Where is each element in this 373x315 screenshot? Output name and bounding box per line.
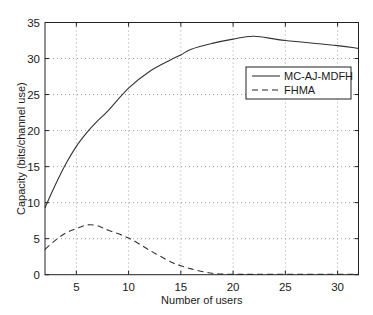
x-tick-label: 5 xyxy=(73,281,79,293)
x-tick-label: 30 xyxy=(331,281,344,293)
x-tick-label: 10 xyxy=(122,281,135,293)
series-line-mc-aj-mdfh xyxy=(45,36,359,208)
x-tick-label: 15 xyxy=(174,281,187,293)
axis-ticks: 5101520253005101520253035 xyxy=(27,17,358,293)
y-tick-label: 35 xyxy=(27,17,40,29)
legend: MC-AJ-MDFH FHMA xyxy=(246,67,353,99)
y-tick-label: 15 xyxy=(27,161,40,173)
plot-area-frame xyxy=(45,23,359,275)
grid-lines xyxy=(45,23,359,275)
series-line-fhma xyxy=(45,225,359,275)
y-tick-label: 10 xyxy=(27,197,40,209)
x-axis-label: Number of users xyxy=(161,294,243,306)
legend-label-fhma: FHMA xyxy=(284,84,316,96)
x-tick-label: 20 xyxy=(227,281,240,293)
y-tick-label: 30 xyxy=(27,53,40,65)
y-axis-label: Capacity (bits/channel use) xyxy=(15,82,27,215)
legend-label-mc-aj-mdfh: MC-AJ-MDFH xyxy=(284,70,353,82)
y-tick-label: 0 xyxy=(34,269,40,281)
capacity-line-chart: 5101520253005101520253035 Number of user… xyxy=(0,0,373,315)
x-tick-label: 25 xyxy=(279,281,292,293)
y-tick-label: 20 xyxy=(27,125,40,137)
y-tick-label: 5 xyxy=(34,233,40,245)
y-tick-label: 25 xyxy=(27,89,40,101)
